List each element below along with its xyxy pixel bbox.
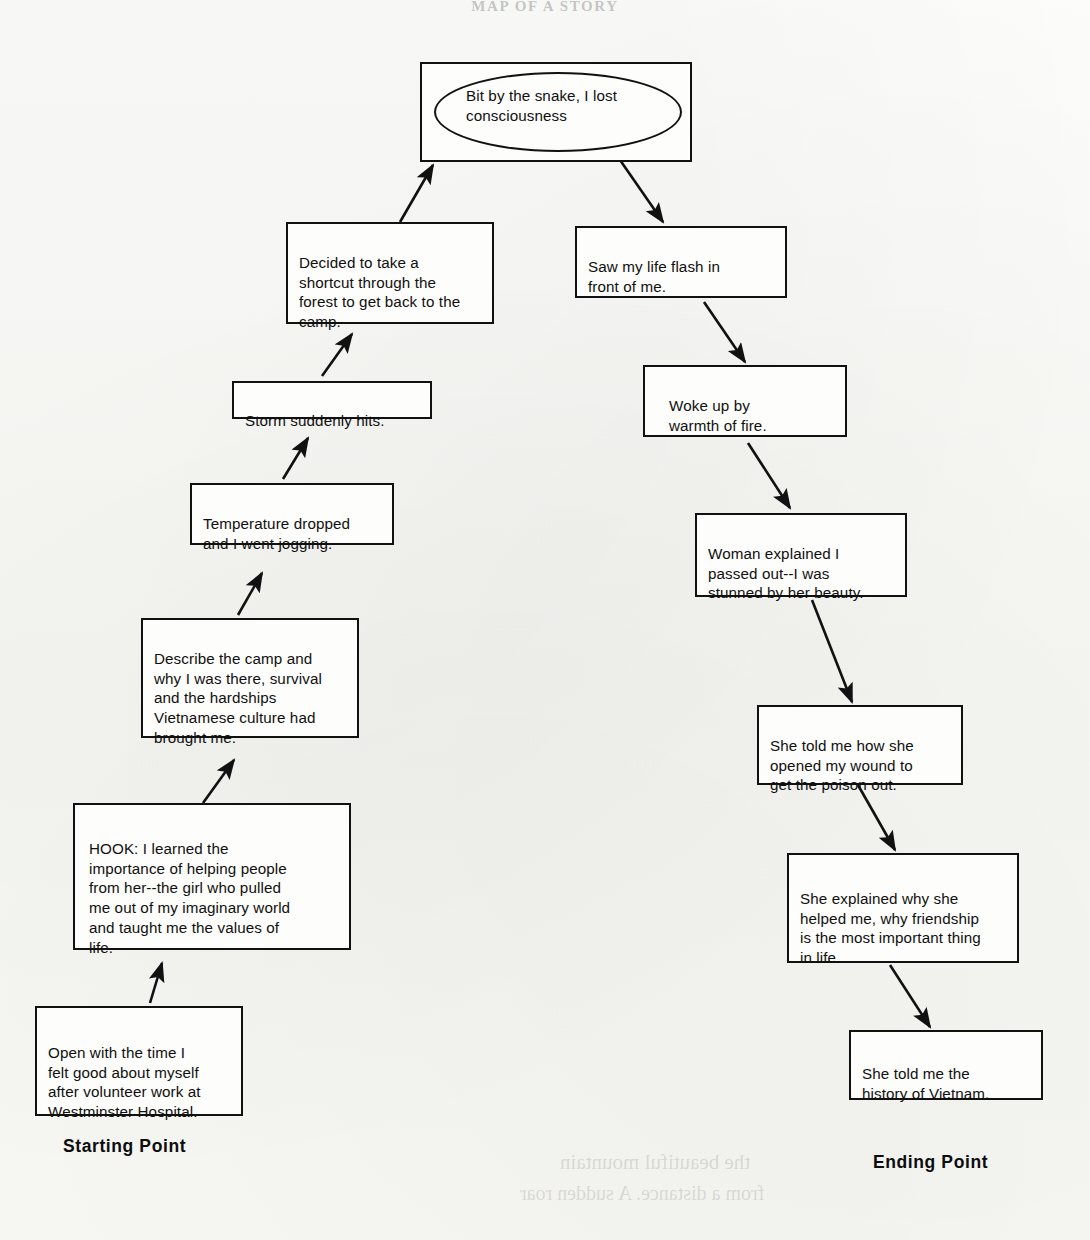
starting-point-label: Starting Point — [63, 1136, 186, 1157]
node-history-text: She told me the history of Vietnam. — [851, 1052, 1041, 1108]
node-wound-text: She told me how she opened my wound to g… — [759, 727, 961, 799]
node-temperature[interactable]: Temperature dropped and I went jogging. — [190, 483, 394, 545]
edge-describe-camp-to-temperature — [238, 573, 262, 615]
node-climax[interactable]: Bit by the snake, I lost consciousness — [420, 62, 692, 162]
node-storm[interactable]: Storm suddenly hits. — [232, 381, 432, 419]
node-hook[interactable]: HOOK: I learned the importance of helpin… — [73, 803, 351, 950]
node-woman-explained[interactable]: Woman explained I passed out--I was stun… — [695, 513, 907, 597]
edge-shortcut-to-climax — [400, 165, 433, 222]
edge-climax-to-life-flash — [620, 160, 663, 222]
story-map-page: MAP OF A STORY the beautiful mountain fr… — [0, 0, 1090, 1240]
node-shortcut[interactable]: Decided to take a shortcut through the f… — [286, 222, 494, 324]
node-friendship-text: She explained why she helped me, why fri… — [789, 875, 1017, 972]
node-woke-up[interactable]: Woke up by warmth of fire. — [643, 365, 847, 437]
node-woke-up-text: Woke up by warmth of fire. — [645, 387, 845, 440]
node-life-flash-text: Saw my life flash in front of me. — [577, 248, 785, 301]
node-describe-camp-text: Describe the camp and why I was there, s… — [143, 640, 357, 752]
node-open-text: Open with the time I felt good about mys… — [37, 1028, 241, 1126]
node-life-flash[interactable]: Saw my life flash in front of me. — [575, 226, 787, 298]
node-hook-text: HOOK: I learned the importance of helpin… — [75, 825, 349, 962]
node-open[interactable]: Open with the time I felt good about mys… — [35, 1006, 243, 1116]
ending-point-label: Ending Point — [873, 1152, 988, 1173]
node-climax-text: Bit by the snake, I lost consciousness — [466, 86, 666, 126]
node-shortcut-text: Decided to take a shortcut through the f… — [288, 244, 492, 336]
node-temperature-text: Temperature dropped and I went jogging. — [192, 505, 392, 558]
node-storm-text: Storm suddenly hits. — [234, 403, 430, 435]
node-history[interactable]: She told me the history of Vietnam. — [849, 1030, 1043, 1100]
node-wound[interactable]: She told me how she opened my wound to g… — [757, 705, 963, 785]
node-friendship[interactable]: She explained why she helped me, why fri… — [787, 853, 1019, 963]
bleed-through-text-1: the beautiful mountain — [560, 1150, 750, 1175]
node-woman-explained-text: Woman explained I passed out--I was stun… — [697, 535, 905, 607]
page-header-title: MAP OF A STORY — [0, 0, 1090, 15]
bleed-through-text-2: from a distance. A sudden roar — [520, 1182, 764, 1205]
node-describe-camp[interactable]: Describe the camp and why I was there, s… — [141, 618, 359, 738]
